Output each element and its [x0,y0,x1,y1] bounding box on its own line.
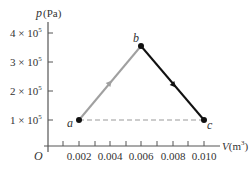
x-tick-label-0.004: 0.004 [98,150,123,162]
point-a [76,117,82,123]
origin-label: O [34,149,43,163]
point-label-a: a [67,116,73,130]
x-tick-label-0.008: 0.008 [161,150,186,162]
y-axis-title: p(Pa) [35,6,62,20]
point-label-b: b [133,31,139,45]
point-label-c: c [207,118,213,132]
x-ticks [63,141,204,146]
x-tick-label-0.006: 0.006 [129,150,154,162]
y-ticks [48,33,53,120]
x-tick-label-0.010: 0.010 [192,150,217,162]
y-tick-label-3e5: 3 × 105 [10,55,42,68]
y-tick-label-1e5: 1 × 105 [10,113,42,126]
x-axis-title: V(m3) [222,139,248,153]
pv-diagram: 4 × 105 3 × 105 2 × 105 1 × 105 p(Pa) 0.… [0,0,252,170]
y-tick-label-2e5: 2 × 105 [10,84,42,97]
y-tick-label-4e5: 4 × 105 [10,26,42,39]
x-tick-label-0.002: 0.002 [67,150,92,162]
